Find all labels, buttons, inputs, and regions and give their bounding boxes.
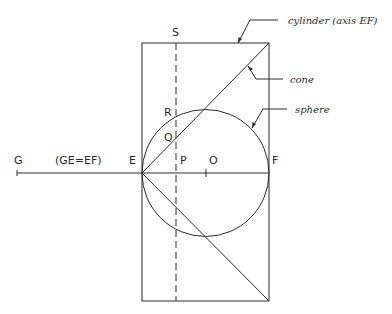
- cone-arrow-icon: [248, 66, 253, 71]
- label-f: F: [272, 154, 278, 167]
- geometry-diagram: G (GE=EF) E P O F Q R S cylinder (axis E…: [0, 0, 392, 314]
- label-s: S: [172, 26, 179, 39]
- annotation-cone: cone: [290, 74, 314, 85]
- annotation-sphere: sphere: [295, 104, 330, 115]
- cone-lower-line: [142, 173, 269, 301]
- cone-upper-line: [142, 43, 269, 173]
- label-r: R: [164, 106, 172, 119]
- cylinder-leader: [238, 20, 278, 43]
- label-ge-eq-ef: (GE=EF): [55, 154, 102, 167]
- cylinder-arrow-icon: [238, 37, 242, 43]
- label-e: E: [129, 154, 136, 167]
- label-p: P: [180, 154, 187, 167]
- label-g: G: [14, 154, 23, 167]
- label-q: Q: [164, 131, 173, 144]
- label-o: O: [209, 154, 218, 167]
- annotation-cylinder: cylinder (axis EF): [288, 15, 378, 26]
- cone-leader: [248, 66, 283, 79]
